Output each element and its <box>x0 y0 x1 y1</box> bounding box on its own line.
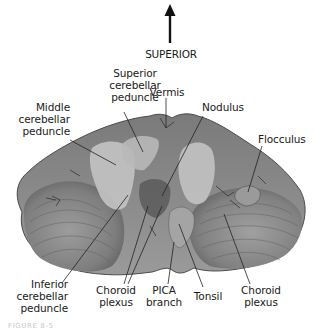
up-arrow-icon <box>165 4 176 43</box>
superior-direction-label: SUPERIOR <box>142 48 200 60</box>
label-choroid-plexus-left: Choroid plexus <box>92 284 140 308</box>
label-pica-branch: PICA branch <box>144 284 184 308</box>
figure-caption: FIGURE 8-5 <box>8 322 54 330</box>
label-inferior-cerebellar-peduncle: Inferior cerebellar peduncle <box>4 278 68 314</box>
label-tonsil: Tonsil <box>190 290 226 302</box>
cerebellum-diagram: SUPERIOR Superior cerebellar peduncle Ve… <box>0 0 314 331</box>
label-nodulus: Nodulus <box>202 101 244 113</box>
label-flocculus: Flocculus <box>258 133 306 145</box>
label-middle-cerebellar-peduncle: Middle cerebellar peduncle <box>6 101 70 137</box>
label-choroid-plexus-right: Choroid plexus <box>236 284 286 308</box>
label-vermis: Vermis <box>146 86 188 98</box>
